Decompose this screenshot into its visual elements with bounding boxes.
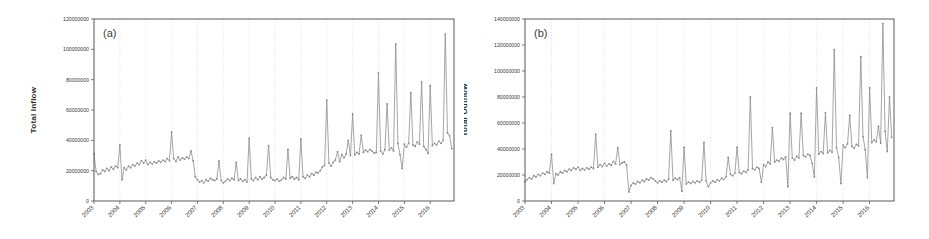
data-point (367, 151, 369, 153)
data-point (184, 158, 186, 160)
ytick-label-2: 40000000 (497, 146, 520, 152)
data-point (805, 156, 807, 158)
ytick-label-2: 40000000 (66, 137, 89, 143)
data-point (619, 164, 621, 166)
ytick-label-1: 20000000 (497, 172, 520, 178)
data-point (365, 149, 367, 151)
ytick-label-0: 0 (517, 198, 520, 204)
xtick-label-2015: 2015 (390, 203, 405, 218)
data-point (608, 163, 610, 165)
ytick-label-5: 100000000 (63, 46, 89, 52)
data-point (322, 166, 324, 168)
data-point (688, 181, 690, 183)
data-point (674, 177, 676, 179)
data-point (306, 174, 308, 176)
data-point (216, 178, 218, 180)
data-point (610, 164, 612, 166)
data-point (347, 139, 349, 141)
data-point (800, 112, 802, 114)
panel-tag: (a) (103, 27, 116, 39)
data-point (661, 181, 663, 183)
data-point (274, 180, 276, 182)
data-point (579, 170, 581, 172)
data-point (537, 173, 539, 175)
data-point (551, 153, 553, 155)
ytick-label-7: 140000000 (494, 16, 520, 22)
data-point (266, 174, 268, 176)
data-point (130, 167, 132, 169)
ytick-label-0: 0 (86, 198, 89, 204)
data-point (294, 178, 296, 180)
xtick-label-2005: 2005 (564, 203, 579, 218)
data-point (858, 145, 860, 147)
data-point (884, 131, 886, 133)
data-point (564, 170, 566, 172)
data-point (749, 96, 751, 98)
data-point (296, 177, 298, 179)
data-point (160, 161, 162, 163)
data-point (809, 155, 811, 157)
data-point (309, 176, 311, 178)
data-point (97, 174, 99, 176)
data-point (181, 157, 183, 159)
data-point (531, 178, 533, 180)
data-point (246, 181, 248, 183)
data-point (427, 152, 429, 154)
data-point (117, 167, 119, 169)
data-point (128, 165, 130, 167)
data-point (177, 156, 179, 158)
data-point (169, 160, 171, 162)
data-point (849, 114, 851, 116)
data-point (701, 179, 703, 181)
data-point (278, 180, 280, 182)
data-point (794, 159, 796, 161)
data-point (588, 168, 590, 170)
data-point (141, 160, 143, 162)
data-point (276, 178, 278, 180)
data-point (440, 142, 442, 144)
data-point (242, 180, 244, 182)
data-point (281, 179, 283, 181)
data-point (723, 179, 725, 181)
data-point (628, 191, 630, 193)
chart-panel-b: 0200000004000000060000000800000001000000… (464, 0, 928, 239)
data-point (434, 142, 436, 144)
data-point (730, 173, 732, 175)
data-point (882, 23, 884, 25)
data-point (253, 180, 255, 182)
data-point (860, 56, 862, 58)
data-point (741, 173, 743, 175)
data-point (410, 92, 412, 94)
data-point (231, 177, 233, 179)
data-point (205, 179, 207, 181)
data-point (386, 103, 388, 105)
data-point (250, 178, 252, 180)
data-point (546, 171, 548, 173)
data-point (862, 136, 864, 138)
data-point (449, 135, 451, 137)
data-point (769, 163, 771, 165)
data-point (328, 162, 330, 164)
data-point (337, 151, 339, 153)
data-point (566, 171, 568, 173)
data-point (562, 172, 564, 174)
xtick-label-2011: 2011 (723, 203, 738, 218)
data-point (838, 157, 840, 159)
xtick-label-2010: 2010 (697, 203, 712, 218)
data-point (526, 179, 528, 181)
data-point (237, 180, 239, 182)
data-point (113, 168, 115, 170)
data-point (659, 180, 661, 182)
data-point (214, 180, 216, 182)
data-point (582, 168, 584, 170)
data-point (712, 180, 714, 182)
data-point (601, 166, 603, 168)
data-point (149, 161, 151, 163)
xtick-label-2010: 2010 (261, 203, 276, 218)
data-point (557, 174, 559, 176)
data-point (692, 181, 694, 183)
data-point (429, 85, 431, 87)
data-point (718, 180, 720, 182)
data-point (789, 112, 791, 114)
data-point (544, 173, 546, 175)
